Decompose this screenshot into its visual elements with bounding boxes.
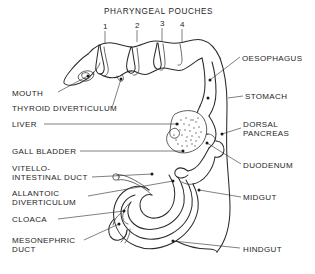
- label-hindgut: HINDGUT: [243, 245, 282, 254]
- dot-midgut: [198, 189, 201, 192]
- dot-oesophagus: [209, 79, 212, 82]
- label-oesophagus: OESOPHAGUS: [242, 54, 302, 63]
- dot-mouth: [87, 75, 90, 78]
- label-dorsal-pancreas-line2: PANCREAS: [243, 129, 289, 138]
- pouch-number-leaders: [105, 28, 182, 44]
- dot-allantoic-diverticulum: [172, 180, 175, 183]
- dot-hindgut: [172, 240, 175, 243]
- label-mouth: MOUTH: [12, 89, 43, 98]
- dot-gall-bladder: [182, 150, 185, 153]
- label-mesonephric-duct-line1: MESONEPHRIC: [12, 236, 75, 245]
- dot-liver: [176, 123, 179, 126]
- pouch-number-2: 2: [135, 21, 140, 30]
- embryonic-gut-diagram: PHARYNGEAL POUCHES 1 2 3 4: [0, 0, 315, 274]
- figure-title: PHARYNGEAL POUCHES: [104, 7, 213, 16]
- gut-tube-outline: [64, 39, 230, 252]
- label-vitello-intestinal-duct-line1: VITELLO-: [12, 164, 50, 173]
- label-thyroid-diverticulum: THYROID DIVERTICULUM: [12, 104, 117, 113]
- leader-mouth: [58, 76, 88, 92]
- label-gall-bladder: GALL BLADDER: [12, 147, 76, 156]
- label-allantoic-diverticulum-line2: DIVERTICULUM: [12, 198, 76, 207]
- dot-stomach: [207, 97, 210, 100]
- leader-allantoic-diverticulum: [88, 181, 173, 196]
- dot-dorsal-pancreas: [221, 133, 224, 136]
- label-liver: LIVER: [12, 120, 37, 129]
- leader-vitello-intestinal-duct: [92, 174, 152, 177]
- leader-dorsal-pancreas: [222, 128, 241, 134]
- pouch-number-4: 4: [180, 20, 185, 29]
- dot-duodenum: [206, 142, 209, 145]
- label-mesonephric-duct-line2: DUCT: [12, 245, 36, 254]
- dot-cloaca: [123, 210, 126, 213]
- label-cloaca: CLOACA: [12, 215, 47, 224]
- pouch-number-1: 1: [103, 22, 108, 31]
- pouch-number-3: 3: [160, 19, 165, 28]
- leader-stomach: [228, 96, 243, 98]
- label-allantoic-diverticulum-line1: ALLANTOIC: [12, 189, 59, 198]
- dot-vitello-intestinal-duct: [151, 173, 154, 176]
- label-duodenum: DUODENUM: [243, 161, 293, 170]
- dot-mesonephric-duct: [118, 223, 121, 226]
- label-midgut: MIDGUT: [243, 193, 277, 202]
- diagram-canvas: PHARYNGEAL POUCHES 1 2 3 4: [0, 0, 315, 274]
- leader-duodenum: [207, 143, 241, 164]
- leader-midgut: [199, 190, 241, 197]
- leader-mesonephric-duct: [84, 224, 119, 240]
- label-dorsal-pancreas-line1: DORSAL: [243, 120, 278, 129]
- label-vitello-intestinal-duct-line2: INTESTINAL DUCT: [12, 173, 88, 182]
- dot-thyroid-diverticulum: [120, 78, 123, 81]
- label-stomach: STOMACH: [245, 92, 287, 101]
